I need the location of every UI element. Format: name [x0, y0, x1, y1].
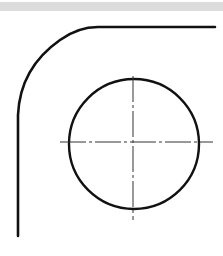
circle	[69, 79, 199, 209]
outer-profile	[18, 27, 215, 236]
drawing-canvas	[0, 0, 223, 256]
